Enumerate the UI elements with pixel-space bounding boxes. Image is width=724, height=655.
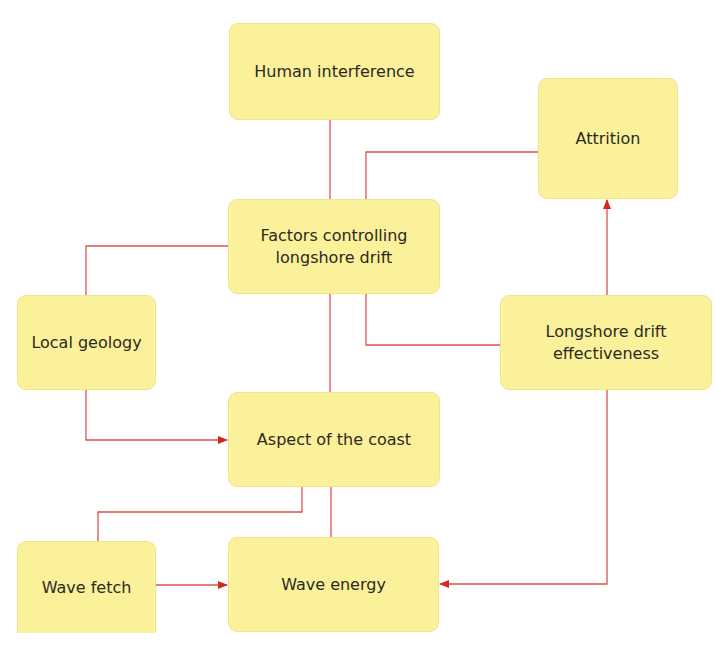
edge-factors-localgeology <box>86 246 228 296</box>
node-attrition: Attrition <box>538 78 678 199</box>
edge-factors-attrition <box>366 152 538 200</box>
node-wave-energy: Wave energy <box>228 537 439 632</box>
node-label: Factors controlling longshore drift <box>260 225 407 269</box>
edge-factors-longshore <box>366 294 500 345</box>
node-label: Aspect of the coast <box>257 429 411 451</box>
diagram-canvas: Human interference Attrition Factors con… <box>0 0 724 655</box>
node-longshore-drift-effectiveness: Longshore drift effectiveness <box>500 295 712 390</box>
node-label: Wave energy <box>281 574 386 596</box>
node-label: Human interference <box>254 61 414 83</box>
node-label: Attrition <box>576 128 641 150</box>
node-aspect-of-the-coast: Aspect of the coast <box>228 392 440 487</box>
node-local-geology: Local geology <box>17 295 156 390</box>
node-factors-controlling-longshore-drift: Factors controlling longshore drift <box>228 199 440 294</box>
node-label: Wave fetch <box>42 577 132 599</box>
edge-longshore-waveenergy <box>440 390 607 584</box>
node-label: Longshore drift effectiveness <box>546 321 667 365</box>
node-label: Local geology <box>31 332 141 354</box>
edge-aspect-wavefetch <box>98 487 302 541</box>
node-human-interference: Human interference <box>229 23 440 120</box>
edge-localgeology-aspect <box>86 390 227 440</box>
node-wave-fetch: Wave fetch <box>17 541 156 633</box>
